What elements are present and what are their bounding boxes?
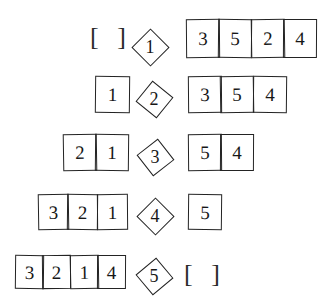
value-cell: 1 xyxy=(95,134,129,171)
value-cell: 5 xyxy=(188,134,222,171)
value-cell: 5 xyxy=(188,194,222,230)
right-cell-group: 3 5 2 4 xyxy=(186,19,317,58)
algorithm-trace-diagram: [ ] 1 3 5 2 4 1 2 3 5 4 2 1 xyxy=(0,0,336,303)
step-number: 1 xyxy=(146,38,155,56)
step-diamond: 1 xyxy=(130,27,170,67)
empty-list-bracket-right: [ ] xyxy=(184,261,226,287)
value-cell: 1 xyxy=(97,194,128,230)
value-cell: 2 xyxy=(67,194,98,230)
value-cell: 2 xyxy=(63,134,98,172)
step-diamond: 4 xyxy=(135,196,175,236)
value-cell: 3 xyxy=(188,76,222,113)
left-cell-group: 3 2 1 4 xyxy=(15,255,126,289)
trace-row: 3 2 1 4 5 [ ] xyxy=(0,243,336,299)
trace-row: 3 2 1 4 5 xyxy=(0,185,336,241)
trace-row: [ ] 1 3 5 2 4 xyxy=(0,10,336,66)
value-cell: 1 xyxy=(95,76,130,113)
value-cell: 2 xyxy=(42,255,71,289)
value-cell: 1 xyxy=(70,255,100,289)
left-cell-group: 1 xyxy=(95,76,130,113)
step-number: 5 xyxy=(150,267,159,285)
value-cell: 3 xyxy=(186,19,220,58)
value-cell: 4 xyxy=(253,76,287,113)
right-cell-group: 5 4 xyxy=(188,134,254,171)
empty-list-bracket-left: [ ] xyxy=(90,24,132,50)
step-number: 2 xyxy=(150,90,159,108)
step-number: 4 xyxy=(151,207,160,225)
left-cell-group: 2 1 xyxy=(63,134,129,171)
value-cell: 5 xyxy=(220,76,255,114)
step-diamond: 5 xyxy=(134,256,174,296)
value-cell: 5 xyxy=(218,19,252,58)
value-cell: 4 xyxy=(97,255,126,289)
value-cell: 4 xyxy=(283,19,317,58)
step-diamond: 2 xyxy=(134,79,174,119)
value-cell: 2 xyxy=(251,19,286,59)
value-cell: 3 xyxy=(38,194,70,230)
right-cell-group: 3 5 4 xyxy=(188,76,287,113)
right-cell-group: 5 xyxy=(188,194,222,230)
step-diamond: 3 xyxy=(135,137,175,177)
left-cell-group: 3 2 1 xyxy=(38,194,128,230)
value-cell: 3 xyxy=(15,255,44,289)
trace-row: 2 1 3 5 4 xyxy=(0,126,336,182)
trace-row: 1 2 3 5 4 xyxy=(0,67,336,123)
value-cell: 4 xyxy=(220,134,254,171)
step-number: 3 xyxy=(151,148,160,166)
